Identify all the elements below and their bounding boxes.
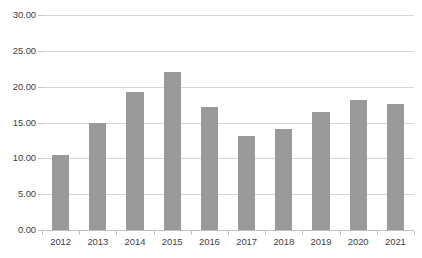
bar-slot (42, 15, 79, 230)
x-axis-tick-label: 2015 (154, 236, 191, 248)
category-axis-tick-mark (377, 231, 378, 235)
x-axis-tick-label: 2012 (42, 236, 79, 248)
bar-series (42, 15, 414, 230)
bar[interactable] (164, 72, 181, 230)
x-axis-tick-label: 2014 (116, 236, 153, 248)
category-axis-tick-mark (116, 231, 117, 235)
x-axis-tick-label: 2020 (340, 236, 377, 248)
y-axis-tick-label: 30.00 (0, 10, 36, 20)
x-axis-tick-label: 2021 (377, 236, 414, 248)
bar-slot (154, 15, 191, 230)
x-axis-tick-labels: 2012201320142015201620172018201920202021 (42, 236, 414, 252)
y-axis-tick-label: 0.00 (0, 225, 36, 235)
bar-slot (302, 15, 339, 230)
y-axis-tick-label: 5.00 (0, 189, 36, 199)
category-axis-tick-mark (79, 231, 80, 235)
bar[interactable] (350, 100, 367, 230)
category-axis-tick-mark (340, 231, 341, 235)
bar[interactable] (275, 129, 292, 230)
bar-slot (377, 15, 414, 230)
bar[interactable] (89, 123, 106, 230)
category-axis-tick-mark (42, 231, 43, 235)
x-axis-tick-label: 2017 (228, 236, 265, 248)
y-axis-tick-label: 10.00 (0, 153, 36, 163)
bar-slot (191, 15, 228, 230)
x-axis-tick-label: 2019 (302, 236, 339, 248)
bar-slot (340, 15, 377, 230)
bar[interactable] (312, 112, 329, 230)
bar[interactable] (201, 107, 218, 230)
category-axis-tick-mark (228, 231, 229, 235)
x-axis-tick-label: 2016 (191, 236, 228, 248)
y-axis-tick-label: 20.00 (0, 82, 36, 92)
y-axis-tick-labels: 0.005.0010.0015.0020.0025.0030.00 (0, 0, 36, 258)
plot-area (42, 15, 414, 230)
category-axis-tick-mark (154, 231, 155, 235)
bar-slot (116, 15, 153, 230)
category-axis-tick-mark (302, 231, 303, 235)
bar[interactable] (238, 136, 255, 230)
bar[interactable] (52, 155, 69, 230)
y-axis-tick-label: 15.00 (0, 118, 36, 128)
bar-slot (265, 15, 302, 230)
bar[interactable] (126, 92, 143, 230)
bar[interactable] (387, 104, 404, 230)
y-axis-tick-label: 25.00 (0, 46, 36, 56)
category-axis-tick-mark (191, 231, 192, 235)
bar-chart: 0.005.0010.0015.0020.0025.0030.00 201220… (0, 0, 422, 258)
category-axis-tick-mark (414, 231, 415, 235)
category-axis-ticks (42, 231, 414, 235)
bar-slot (79, 15, 116, 230)
category-axis-tick-mark (265, 231, 266, 235)
x-axis-tick-label: 2018 (265, 236, 302, 248)
bar-slot (228, 15, 265, 230)
x-axis-tick-label: 2013 (79, 236, 116, 248)
